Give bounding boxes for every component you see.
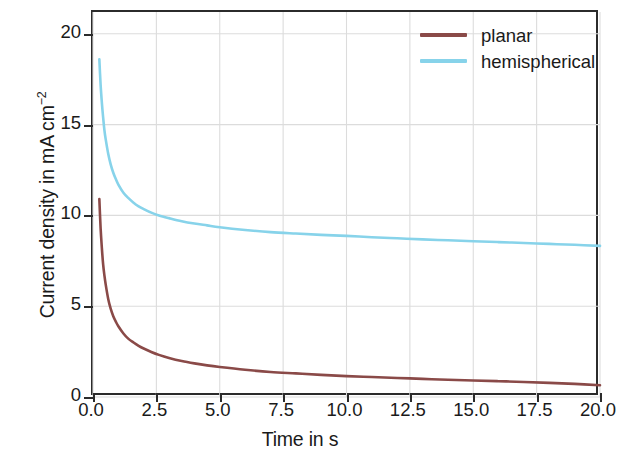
y-tick-label: 20 [35,23,81,41]
x-tick-label: 17.5 [503,400,567,419]
y-tick-label: 10 [35,204,81,222]
legend-item-planar[interactable]: planar [420,22,595,48]
x-axis-title: Time in s [0,428,600,451]
x-tick-label: 0.0 [59,400,123,419]
x-tick-mark [283,393,285,402]
legend-item-label: planar [481,26,532,45]
y-tick-mark [84,34,93,36]
x-tick-label: 15.0 [439,400,503,419]
series-line-hemispherical [99,59,600,246]
x-tick-mark [537,393,539,402]
x-tick-mark [600,393,602,402]
x-tick-label: 2.5 [122,400,186,419]
x-tick-mark [473,393,475,402]
x-tick-mark [93,393,95,402]
series-line-planar [99,199,600,385]
x-tick-mark [410,393,412,402]
legend-item-label: hemispherical [481,52,595,71]
legend-color-swatch [420,33,467,36]
y-axis-title-exponent: −2 [35,92,49,106]
y-tick-mark [84,125,93,127]
x-tick-label: 12.5 [376,400,440,419]
x-tick-mark [347,393,349,402]
y-tick-mark [84,306,93,308]
x-tick-mark [156,393,158,402]
y-tick-mark [84,397,93,399]
legend-color-swatch [420,59,467,62]
x-tick-mark [220,393,222,402]
y-tick-label: 5 [35,295,81,313]
x-tick-label: 20.0 [566,400,620,419]
legend: planarhemispherical [420,22,595,74]
data-series-layer [99,59,600,385]
legend-item-hemispherical[interactable]: hemispherical [420,48,595,74]
x-tick-label: 5.0 [186,400,250,419]
x-tick-label: 10.0 [313,400,377,419]
x-tick-label: 7.5 [249,400,313,419]
y-tick-mark [84,215,93,217]
y-tick-label: 15 [35,114,81,132]
